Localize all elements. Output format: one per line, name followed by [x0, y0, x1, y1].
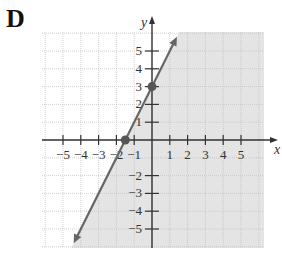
y-axis-label: y: [139, 15, 148, 30]
x-tick-label: −3: [92, 147, 106, 162]
y-tick-label: 5: [136, 43, 143, 58]
y-tick-label: 3: [136, 79, 143, 94]
y-tick-label: −2: [128, 168, 142, 183]
x-tick-label: 3: [202, 147, 209, 162]
y-tick-label: −5: [128, 221, 142, 236]
x-tick-label: 4: [220, 147, 227, 162]
y-axis-arrow-icon: [149, 16, 155, 24]
x-tick-label: 5: [238, 147, 245, 162]
x-tick-label: −1: [127, 147, 141, 162]
x-axis-label: x: [273, 142, 281, 157]
x-tick-label: 1: [167, 147, 174, 162]
plotted-point: [148, 82, 157, 91]
y-tick-label: 4: [136, 61, 143, 76]
inequality-graph: xy−5−4−3−2−112345−5−4−3−212345: [0, 0, 282, 268]
y-tick-label: −3: [128, 185, 142, 200]
y-tick-label: −4: [128, 203, 142, 218]
x-tick-label: −5: [56, 147, 70, 162]
x-tick-label: 2: [184, 147, 191, 162]
plotted-point: [121, 136, 130, 145]
x-tick-label: −4: [74, 147, 88, 162]
